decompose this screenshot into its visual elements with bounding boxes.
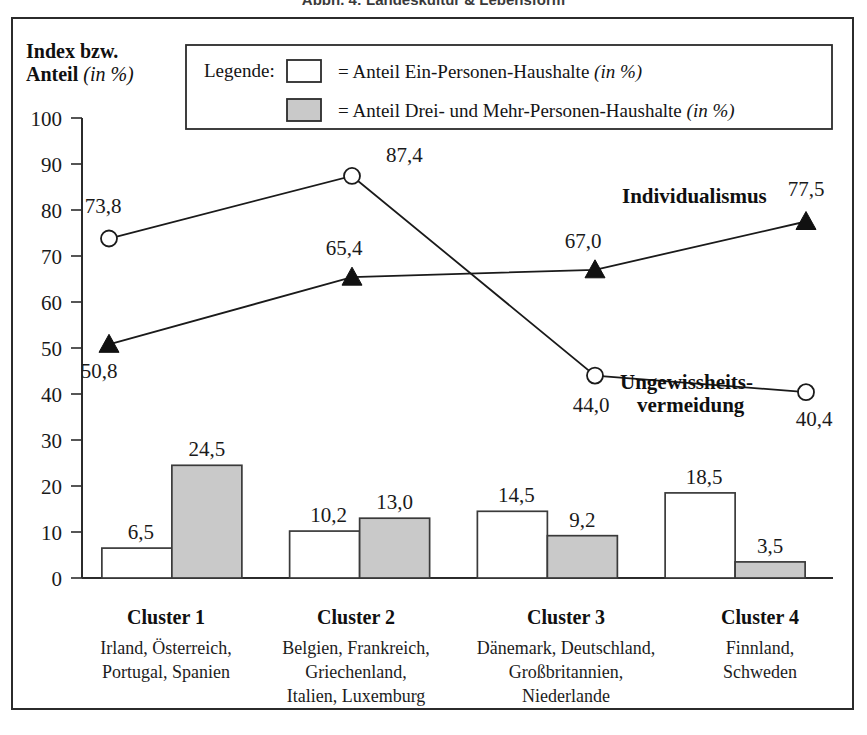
bar-one-person-household xyxy=(102,548,172,578)
y-axis-tick-label: 30 xyxy=(41,429,62,453)
y-axis-tick-label: 20 xyxy=(41,475,62,499)
solid-triangle-marker xyxy=(796,212,816,230)
category-members-line: Finnland, xyxy=(726,638,795,658)
y-axis-tick-label: 0 xyxy=(52,567,63,591)
category-label-cluster: Cluster 1 xyxy=(127,606,205,628)
open-circle-marker xyxy=(101,231,117,247)
y-axis-tick-label: 90 xyxy=(41,153,62,177)
legend: Legende: = Anteil Ein-Personen-Haushalte… xyxy=(186,45,832,129)
open-circle-marker xyxy=(587,368,603,384)
category-members-line: Irland, Österreich, xyxy=(100,638,231,658)
category-members-line: Großbritannien, xyxy=(509,662,623,682)
y-axis-title-line2: Anteil (in %) xyxy=(26,63,134,86)
y-axis-tick-label: 40 xyxy=(41,383,62,407)
bar-value-label: 6,5 xyxy=(128,520,154,544)
bar-one-person-household xyxy=(477,511,547,578)
bar-value-label: 14,5 xyxy=(498,483,535,507)
line-value-label: 67,0 xyxy=(565,229,602,253)
chart-canvas: Index bzw. Anteil (in %) Legende: = Ante… xyxy=(0,0,867,735)
legend-entry-0-text: = Anteil Ein-Personen-Haushalte xyxy=(338,61,594,82)
series-label-individualismus: Individualismus xyxy=(622,184,767,208)
y-axis-tick-label: 50 xyxy=(41,337,62,361)
y-axis-title-italic: (in %) xyxy=(83,63,134,86)
legend-entry-0-italic: (in %) xyxy=(594,61,642,83)
category-labels-group: Cluster 1Irland, Österreich,Portugal, Sp… xyxy=(100,606,799,706)
legend-entry-1-text: = Anteil Drei- und Mehr-Personen-Haushal… xyxy=(338,100,687,121)
open-circle-marker xyxy=(344,168,360,184)
bar-one-person-household xyxy=(665,493,735,578)
legend-entry-1-label: = Anteil Drei- und Mehr-Personen-Haushal… xyxy=(338,100,735,122)
category-members-line: Schweden xyxy=(723,662,797,682)
bar-value-label: 13,0 xyxy=(376,490,413,514)
legend-entry-0-label: = Anteil Ein-Personen-Haushalte (in %) xyxy=(338,61,642,83)
y-axis-tick-label: 80 xyxy=(41,199,62,223)
bar-value-label: 3,5 xyxy=(757,534,783,558)
legend-swatch-white-square xyxy=(287,60,321,82)
line-series-path xyxy=(109,176,806,392)
category-members-line: Portugal, Spanien xyxy=(102,662,230,682)
bar-three-plus-person-household xyxy=(547,536,617,578)
legend-swatch-gray-square xyxy=(287,99,321,121)
category-label-cluster: Cluster 3 xyxy=(527,606,605,628)
y-axis-tick-label: 100 xyxy=(31,107,63,131)
line-value-label: 44,0 xyxy=(573,393,610,417)
line-value-label: 77,5 xyxy=(788,177,825,201)
category-members-line: Griechenland, xyxy=(305,662,406,682)
bar-value-label: 24,5 xyxy=(189,437,226,461)
legend-title: Legende: xyxy=(204,60,275,81)
y-axis-tick-label: 70 xyxy=(41,245,62,269)
line-value-label: 73,8 xyxy=(85,194,122,218)
series-label-ungewissheitsvermeidung-line1: Ungewissheits- xyxy=(620,370,753,394)
bars-group: 6,524,510,213,014,59,218,53,5 xyxy=(102,437,805,578)
category-label-cluster: Cluster 4 xyxy=(721,606,799,628)
y-axis-title-line1: Index bzw. xyxy=(26,40,118,62)
bar-three-plus-person-household xyxy=(735,562,805,578)
bar-three-plus-person-household xyxy=(360,518,430,578)
category-members-line: Belgien, Frankreich, xyxy=(282,638,429,658)
bar-value-label: 10,2 xyxy=(310,503,347,527)
line-series-path xyxy=(109,222,806,345)
series-label-ungewissheitsvermeidung-line2: vermeidung xyxy=(637,393,745,417)
chart-page: Abbn. 4: Landeskultur & Lebensform Index… xyxy=(0,0,867,735)
line-value-label: 87,4 xyxy=(386,143,423,167)
bar-value-label: 9,2 xyxy=(569,508,595,532)
bar-one-person-household xyxy=(290,531,360,578)
solid-triangle-marker xyxy=(99,334,119,352)
category-label-cluster: Cluster 2 xyxy=(317,606,395,628)
category-members-line: Italien, Luxemburg xyxy=(287,686,426,706)
line-value-label: 65,4 xyxy=(326,236,363,260)
y-axis-title-bold: Anteil xyxy=(26,63,83,85)
bar-three-plus-person-household xyxy=(172,465,242,578)
series-annotations: Individualismus Ungewissheits- vermeidun… xyxy=(620,184,767,417)
line-value-label: 40,4 xyxy=(796,407,833,431)
line-value-label: 50,8 xyxy=(81,359,118,383)
y-axis-tick-label: 10 xyxy=(41,521,62,545)
y-axis-tick-label: 60 xyxy=(41,291,62,315)
bar-value-label: 18,5 xyxy=(686,465,723,489)
open-circle-marker xyxy=(798,384,814,400)
category-members-line: Dänemark, Deutschland, xyxy=(477,638,655,658)
legend-entry-1-italic: (in %) xyxy=(687,100,735,122)
category-members-line: Niederlande xyxy=(522,686,610,706)
